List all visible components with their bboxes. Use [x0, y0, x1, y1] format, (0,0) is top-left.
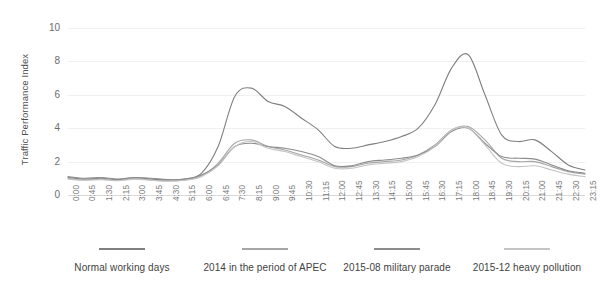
x-tick-label: 6:00 [205, 185, 214, 201]
x-tick-label: 5:15 [188, 185, 197, 201]
x-tick-label: 19:30 [505, 181, 514, 202]
series-line [68, 126, 585, 181]
series-line [68, 127, 585, 181]
x-tick-label: 9:45 [288, 185, 297, 201]
legend-label: 2015-08 military parade [322, 262, 472, 273]
y-tick-label: 10 [38, 23, 60, 33]
legend-swatch [374, 248, 420, 250]
x-tick-label: 18:00 [472, 181, 481, 202]
chart-legend: Normal working days2014 in the period of… [0, 248, 601, 293]
x-tick-label: 16:30 [438, 181, 447, 202]
x-tick-label: 11:15 [322, 181, 331, 201]
legend-item[interactable]: 2015-08 military parade [322, 248, 472, 273]
legend-item[interactable]: 2014 in the period of APEC [185, 248, 345, 273]
x-tick-label: 6:45 [222, 185, 231, 201]
x-tick-label: 4:30 [172, 185, 181, 201]
x-tick-label: 3:00 [138, 185, 147, 201]
x-tick-label: 8:15 [255, 185, 264, 201]
legend-item[interactable]: Normal working days [52, 248, 192, 273]
y-axis-title: Traffic Performance Index [19, 20, 30, 200]
traffic-performance-index-chart: Traffic Performance Index 0246810 0:000:… [0, 0, 601, 297]
y-tick-label: 0 [38, 190, 60, 200]
y-tick-label: 8 [38, 56, 60, 66]
legend-label: Normal working days [52, 262, 192, 273]
x-tick-label: 15:00 [405, 181, 414, 202]
x-tick-label: 1:30 [105, 185, 114, 201]
x-tick-label: 10:30 [305, 181, 314, 202]
x-tick-label: 23:15 [589, 181, 598, 202]
legend-swatch [504, 248, 550, 250]
x-tick-label: 13:30 [372, 181, 381, 202]
legend-swatch [99, 248, 145, 250]
x-tick-label: 21:45 [555, 181, 564, 202]
x-tick-label: 15:45 [422, 181, 431, 202]
x-tick-label: 21:00 [538, 181, 547, 202]
y-tick-label: 6 [38, 90, 60, 100]
series-line [68, 127, 585, 179]
y-tick-label: 4 [38, 123, 60, 133]
x-tick-label: 9:00 [272, 185, 281, 201]
series-lines [68, 28, 585, 195]
x-tick-label: 20:15 [522, 181, 531, 202]
x-tick-label: 2:15 [122, 185, 131, 201]
x-tick-label: 7:30 [238, 185, 247, 201]
x-tick-label: 17:15 [455, 181, 464, 202]
x-tick-label: 14:15 [388, 181, 397, 202]
x-tick-label: 12:00 [338, 181, 347, 202]
plot-area [68, 28, 585, 195]
x-tick-label: 12:45 [355, 181, 364, 202]
x-tick-label: 3:45 [155, 185, 164, 201]
x-tick-label: 18:45 [488, 181, 497, 202]
legend-swatch [242, 248, 288, 250]
x-tick-label: 0:45 [88, 185, 97, 201]
x-tick-label: 0:00 [72, 185, 81, 201]
legend-item[interactable]: 2015-12 heavy pollution [452, 248, 601, 273]
y-tick-label: 2 [38, 157, 60, 167]
legend-label: 2014 in the period of APEC [185, 262, 345, 273]
x-tick-label: 22:30 [572, 181, 581, 202]
legend-label: 2015-12 heavy pollution [452, 262, 601, 273]
